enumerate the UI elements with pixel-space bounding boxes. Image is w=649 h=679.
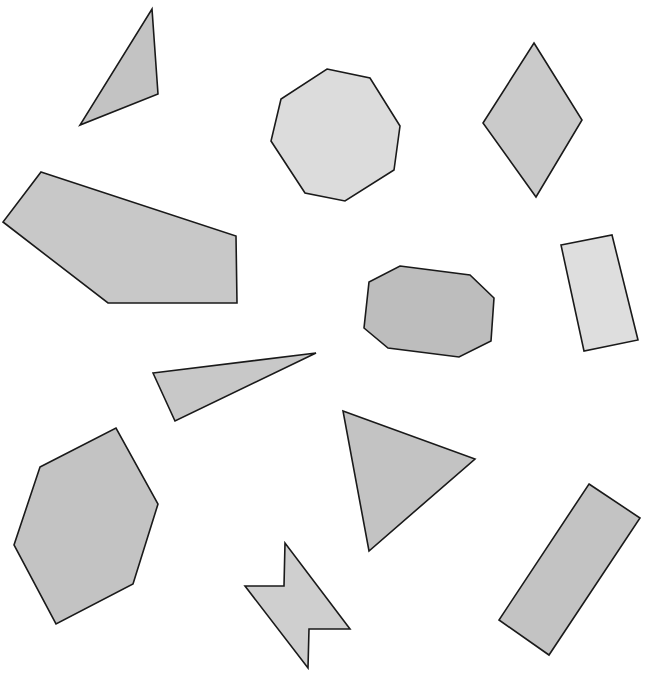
shapes-diagram: [0, 0, 649, 679]
rectangle-bottom-right: [499, 484, 640, 655]
octagon-top: [271, 69, 400, 201]
shapes-canvas: [0, 0, 649, 679]
rhombus: [483, 43, 582, 197]
hexagon-left: [14, 428, 158, 624]
pentagon-left: [3, 172, 237, 303]
triangle-top-left: [80, 9, 158, 125]
bowtie-shape: [245, 543, 350, 668]
triangle-thin: [153, 353, 316, 421]
octagon-middle: [364, 266, 494, 357]
rectangle-right: [561, 235, 638, 351]
triangle-bottom-middle: [343, 411, 475, 551]
